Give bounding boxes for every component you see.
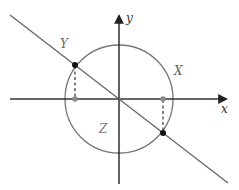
- intersection-point-upper: [72, 62, 78, 68]
- diagram-canvas: y x Y X Z: [0, 0, 239, 190]
- intersection-point-lower: [160, 130, 166, 136]
- x-axis-label: x: [221, 102, 228, 116]
- region-label-x: X: [173, 64, 183, 78]
- projection-point-left: [72, 96, 78, 102]
- y-axis-label: y: [125, 11, 133, 25]
- projection-point-right: [160, 96, 166, 102]
- region-label-z: Z: [98, 122, 108, 136]
- region-label-y: Y: [60, 37, 69, 51]
